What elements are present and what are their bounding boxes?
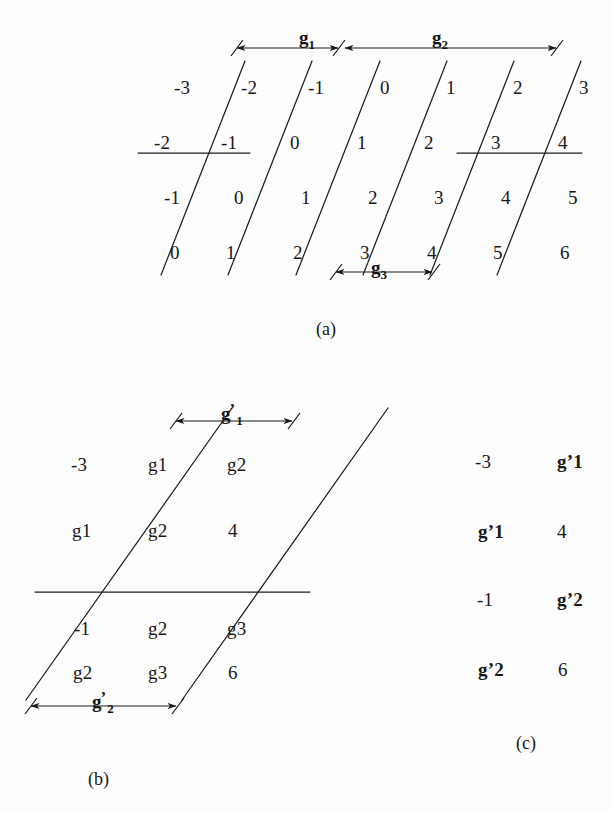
panel-c-cell: 6: [558, 660, 568, 679]
panel-b-cell: -3: [71, 455, 87, 474]
g1-sub: 1: [309, 37, 316, 52]
panel-c-cell: -1: [477, 590, 493, 609]
cell-sub: 2: [237, 454, 247, 475]
panel-b-cell: -1: [74, 619, 90, 638]
cell-sub: 1: [158, 454, 168, 475]
cell-base: g: [557, 451, 567, 472]
g1p-prime: ’: [230, 400, 236, 419]
panel-b-diagonal-2: [182, 408, 388, 700]
panel-a-cell: 0: [234, 188, 244, 207]
cell-base: g: [148, 520, 158, 541]
panel-a-cell: -1: [221, 133, 237, 152]
cell-sub: 1: [573, 451, 583, 472]
cell-sub: 2: [83, 662, 93, 683]
panel-a-cell: 0: [380, 78, 390, 97]
panel-a-cell: -2: [241, 78, 257, 97]
cell-base: 6: [228, 662, 238, 683]
cell-base: g: [227, 618, 237, 639]
panel-c-cell: g’2: [478, 660, 504, 679]
panel-c-cell: -3: [475, 452, 491, 471]
panel-b-cell: 6: [228, 663, 238, 682]
panel-b-cell: g1: [148, 455, 167, 474]
cell-sub: 3: [158, 662, 168, 683]
panel-a-cell: 4: [558, 133, 568, 152]
panel-a-cell: 0: [170, 243, 180, 262]
cell-base: g: [478, 659, 488, 680]
cell-sub: 2: [573, 589, 583, 610]
cell-base: g: [148, 662, 158, 683]
g2-base: g: [432, 27, 442, 48]
cell-base: -1: [74, 618, 90, 639]
panel-a-cell: -3: [174, 78, 190, 97]
panel-a-cell: 2: [513, 78, 523, 97]
cell-base: 6: [558, 659, 568, 680]
panel-b-caption: (b): [88, 770, 109, 788]
panel-a-cell: 4: [427, 243, 437, 262]
panel-b-cell: g2: [148, 521, 167, 540]
panel-a-cell: 4: [501, 188, 511, 207]
g2p-sub: 2: [107, 701, 114, 716]
cell-sub: 1: [494, 521, 504, 542]
panel-a-dimension-label-g2: g2: [432, 28, 448, 47]
panel-b-cell: g3: [227, 619, 246, 638]
g3-sub: 3: [381, 267, 388, 282]
panel-a-caption: (a): [316, 320, 336, 338]
g2-sub: 2: [442, 37, 449, 52]
cell-base: g: [73, 662, 83, 683]
panel-a-dimension-label-g3: g3: [371, 258, 387, 277]
cell-base: g: [148, 454, 158, 475]
panel-a-cell: 1: [357, 133, 367, 152]
panel-a-dimension-label-g1: g1: [299, 28, 315, 47]
panel-b-cell: g2: [73, 663, 92, 682]
cell-sub: 3: [237, 618, 247, 639]
cell-base: g: [148, 618, 158, 639]
cell-base: g: [72, 520, 82, 541]
cell-base: 4: [557, 521, 567, 542]
panel-a-cell: 1: [446, 78, 456, 97]
cell-base: -3: [71, 454, 87, 475]
panel-a-cell: -2: [154, 133, 170, 152]
panel-a-cell: 2: [424, 133, 434, 152]
panel-b-cell: g2: [227, 455, 246, 474]
panel-a-cell: 2: [293, 243, 303, 262]
panel-a-cell: 6: [560, 243, 570, 262]
panel-a-cell: 3: [360, 243, 370, 262]
cell-base: g: [227, 454, 237, 475]
panel-b-cell: 4: [228, 521, 238, 540]
panel-b-dimension-label-g1-prime: g’1: [221, 404, 243, 423]
panel-c-cell: 4: [557, 522, 567, 541]
cell-sub: 2: [158, 618, 168, 639]
panel-b-cell: g1: [72, 521, 91, 540]
cell-sub: 1: [82, 520, 92, 541]
panel-a-cell: 1: [226, 243, 236, 262]
cell-base: -3: [475, 451, 491, 472]
panel-a-cell: 1: [301, 188, 311, 207]
panel-c-cell: g’1: [557, 452, 583, 471]
panel-c-cell: g’2: [557, 590, 583, 609]
panel-c-caption: (c): [516, 734, 536, 752]
panel-a-cell: 3: [579, 78, 589, 97]
cell-sub: 2: [158, 520, 168, 541]
cell-base: -1: [477, 589, 493, 610]
cell-base: g: [557, 589, 567, 610]
figure-page: g1 g2 g3 -3 -2 -1 0 1 2 3 -2 -1 0 1 2 3 …: [0, 0, 611, 813]
panel-c-cell: g’1: [478, 522, 504, 541]
panel-a-cell: 3: [491, 133, 501, 152]
panel-b-diagonal-1: [26, 408, 232, 700]
panel-a-cell: -1: [308, 78, 324, 97]
g2p-prime: ’: [101, 688, 107, 707]
g1-base: g: [299, 27, 309, 48]
panel-b-dimension-label-g2-prime: g’2: [92, 692, 114, 711]
panel-b-cell: g3: [148, 663, 167, 682]
panel-a-cell: 5: [568, 188, 578, 207]
panel-b-cell: g2: [148, 619, 167, 638]
panel-a-cell: 2: [368, 188, 378, 207]
cell-base: g: [478, 521, 488, 542]
cell-sub: 2: [494, 659, 504, 680]
cell-base: 4: [228, 520, 238, 541]
panel-a-cell: 3: [434, 188, 444, 207]
panel-a-cell: 0: [290, 133, 300, 152]
g1p-sub: 1: [236, 413, 243, 428]
panel-a-cell: -1: [164, 188, 180, 207]
panel-a-cell: 5: [493, 243, 503, 262]
